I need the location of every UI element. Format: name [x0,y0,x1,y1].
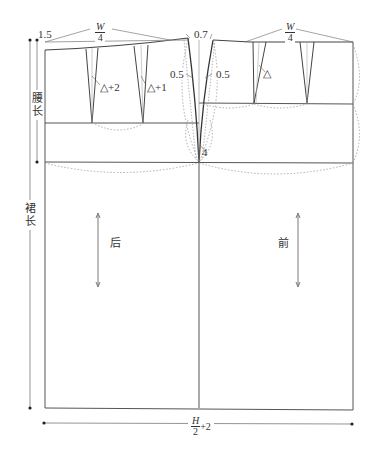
front-waist-line [213,40,353,42]
hip-side-gap-label: 4 [202,147,208,158]
grainlines [96,213,300,287]
back-waist-fraction: W 4 [95,22,105,43]
hip-width-fraction: H 2 [191,416,200,437]
front-dart-depth-line [199,103,353,104]
back-hip-arc [45,163,199,173]
back-waist-curve [45,38,188,50]
side-seam-curves [188,38,213,162]
back-side-curve-label: 0.5 [170,69,184,80]
back-dart-2-label: △+1 [147,82,167,93]
waist-to-hip-label: 腰长 [31,90,42,120]
dimension-lines [28,38,353,425]
front-side-arc-1 [353,44,360,104]
front-side-curve-label: 0.5 [216,69,230,80]
back-dart-1-label: △+2 [100,82,120,93]
back-panel-label: 后 [110,238,121,249]
front-dart-arc-1 [203,104,254,108]
pattern-drawing [0,0,375,457]
hip-width-label: H 2 +2 [188,416,214,437]
back-waist-raise-label: 1.5 [38,29,52,40]
hip-width-suffix: +2 [200,422,211,432]
front-waist-fraction: W 4 [285,22,295,43]
front-panel-label: 前 [278,238,289,249]
hem-line [45,408,353,410]
front-dart-arc-2 [254,104,307,108]
hip-line [45,162,353,163]
front-side-arc-2 [353,104,360,163]
front-dart-1-label: △ [263,68,271,79]
back-dart-arc [95,124,143,130]
front-hip-arc [199,163,353,174]
side-raise-label: 0.7 [194,29,208,40]
skirt-length-label: 裙长 [24,200,35,230]
